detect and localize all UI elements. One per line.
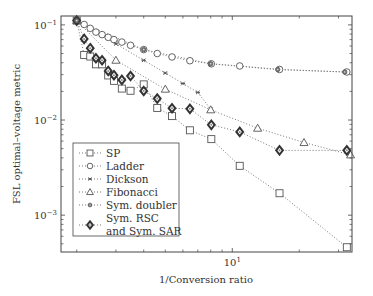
legend-label: SP: [106, 147, 120, 159]
legend-label: Dickson: [106, 173, 149, 185]
star-marker-center: [143, 49, 145, 51]
diamond-marker-center: [89, 47, 91, 49]
circle-marker-shape: [154, 50, 161, 57]
data-point-triangle: [254, 124, 262, 131]
diamond-marker-center: [171, 107, 173, 109]
y-tick-label: 10−2: [34, 114, 57, 126]
y-tick-label: 10−3: [34, 209, 57, 221]
circle-marker-shape: [119, 39, 126, 46]
square-marker-shape: [208, 136, 215, 143]
data-point-circle: [99, 31, 106, 38]
data-point-diamond: [169, 104, 176, 112]
diamond-marker-center: [83, 38, 85, 40]
diamond-marker-center: [121, 79, 123, 81]
data-point-diamond: [187, 105, 194, 113]
data-point-triangle: [161, 85, 169, 92]
data-point-x: [181, 82, 185, 86]
diamond-marker-center: [279, 149, 281, 151]
data-point-square: [343, 244, 350, 251]
data-point-triangle: [207, 106, 215, 113]
data-point-square: [276, 190, 283, 197]
data-point-diamond: [154, 94, 161, 102]
data-point-diamond: [81, 35, 88, 43]
diamond-marker-center: [239, 131, 241, 133]
data-point-circle: [119, 39, 126, 46]
square-marker-shape: [87, 150, 93, 156]
star-marker-center: [76, 20, 78, 22]
square-marker-shape: [236, 162, 243, 169]
square-marker-shape: [118, 85, 125, 92]
legend-label: Sym. RSC: [106, 212, 159, 224]
legend-label: Fibonacci: [106, 186, 158, 198]
legend-label: Ladder: [106, 160, 145, 172]
diamond-marker-center: [95, 57, 97, 59]
data-point-square: [118, 85, 125, 92]
x-marker-shape: [181, 82, 185, 86]
data-point-circle: [93, 29, 100, 36]
circle-marker-shape: [127, 42, 134, 49]
diamond-marker-center: [346, 149, 348, 151]
diamond-marker-center: [113, 74, 115, 76]
triangle-marker-shape: [161, 85, 169, 92]
circle-marker-shape: [87, 163, 93, 169]
x-marker-shape: [196, 91, 200, 95]
data-point-circle: [154, 50, 161, 57]
circle-marker-shape: [99, 31, 106, 38]
data-point-star: [276, 67, 280, 71]
x-tick-label: 101: [224, 256, 241, 268]
circle-marker-shape: [93, 29, 100, 36]
data-point-star: [75, 18, 79, 22]
circle-marker-shape: [111, 36, 118, 43]
square-marker-shape: [343, 244, 350, 251]
triangle-marker-shape: [254, 124, 262, 131]
data-point-circle: [111, 36, 118, 43]
square-marker-shape: [154, 104, 161, 111]
x-axis-label: 1/Conversion ratio: [159, 274, 253, 285]
circle-marker-shape: [169, 54, 176, 61]
data-point-square: [236, 162, 243, 169]
legend-label: and Sym. SAR: [106, 225, 183, 237]
data-point-diamond: [276, 146, 283, 154]
x-marker-shape: [163, 71, 167, 75]
data-point-square: [208, 136, 215, 143]
diamond-marker-center: [130, 75, 132, 77]
diamond-marker-center: [101, 59, 103, 61]
diamond-marker-center: [89, 224, 91, 226]
square-marker-shape: [186, 127, 193, 134]
square-marker-shape: [276, 190, 283, 197]
square-marker-shape: [127, 87, 134, 94]
data-point-diamond: [208, 121, 215, 129]
diamond-marker-center: [107, 70, 109, 72]
diamond-marker-center: [143, 90, 145, 92]
legend-marker-star: [88, 203, 92, 207]
legend-marker-square: [87, 150, 93, 156]
data-point-x: [196, 91, 200, 95]
triangle-marker-shape: [207, 106, 215, 113]
data-point-x: [142, 59, 146, 63]
data-point-square: [127, 87, 134, 94]
y-axis-label: FSL optimal–voltage metric: [11, 63, 22, 204]
legend: SPLadderDicksonFibonacciSym. doublerSym.…: [73, 143, 183, 237]
star-marker-center: [210, 63, 212, 65]
data-point-circle: [169, 54, 176, 61]
diamond-marker-center: [210, 124, 212, 126]
y-tick-label: 10−1: [34, 19, 57, 31]
data-point-circle: [81, 21, 88, 28]
legend-marker-circle: [87, 163, 93, 169]
chart: 10110−110−210−3 1/Conversion ratio FSL o…: [0, 0, 373, 296]
data-point-diamond: [236, 128, 243, 136]
star-marker-center: [344, 71, 346, 73]
diamond-marker-center: [189, 108, 191, 110]
data-point-circle: [236, 63, 243, 70]
diamond-marker-center: [156, 98, 158, 100]
data-point-circle: [187, 57, 194, 64]
data-point-square: [186, 127, 193, 134]
legend-marker-diamond: [87, 221, 93, 228]
circle-marker-shape: [81, 21, 88, 28]
star-marker-center: [277, 69, 279, 71]
circle-marker-shape: [236, 63, 243, 70]
legend-label: Sym. doubler: [106, 199, 178, 211]
x-marker-shape: [142, 59, 146, 63]
data-point-circle: [127, 42, 134, 49]
data-point-x: [163, 71, 167, 75]
